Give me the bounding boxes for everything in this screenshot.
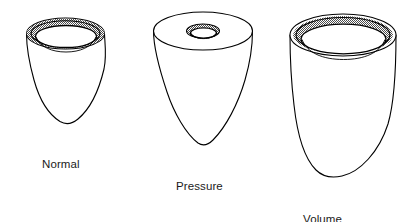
label-pressure-overload: Pressure overload xyxy=(176,153,223,222)
ventricle-cavity-normal xyxy=(36,26,97,48)
ventricle-pressure-overload xyxy=(154,12,253,145)
label-volume-overload: Volume overload xyxy=(303,186,348,222)
label-pressure-line-2: overload xyxy=(176,221,223,223)
label-volume-line-1: Volume xyxy=(303,213,348,222)
ventricle-cavity-volume xyxy=(301,24,386,54)
label-pressure-line-1: Pressure xyxy=(176,180,223,194)
label-normal-line-1: Normal xyxy=(42,158,80,172)
ventricle-volume-overload xyxy=(290,14,396,177)
ventricular-remodeling-figure: Normal Pressure overload Volume overload xyxy=(0,0,409,222)
ventricle-normal xyxy=(27,18,106,124)
label-normal: Normal xyxy=(42,131,80,199)
